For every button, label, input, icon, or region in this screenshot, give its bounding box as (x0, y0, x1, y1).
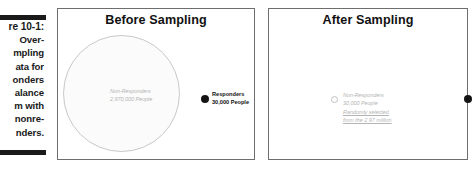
nonresponders-count-after: 30,000 People (343, 99, 392, 107)
caption-line-1: Over- (0, 33, 44, 46)
caption-line-2: mpling (0, 46, 44, 59)
caption-line-7: nonre- (0, 112, 44, 125)
nonresponders-note-line1-after: Randomly selected (343, 108, 392, 116)
panel-after-sampling: After Sampling Non-Responders 30,000 Peo… (268, 8, 468, 160)
nonresponders-note-line2-after: from the 2.97 million (343, 116, 392, 124)
panel-before-stage: Non-Responders 2,970,000 People Responde… (58, 29, 254, 159)
responders-name-before: Responders (212, 91, 249, 99)
panel-after-title: After Sampling (269, 13, 467, 27)
figure-caption: re 10-1: Over- mpling ata for onders ala… (0, 20, 44, 139)
nonresponders-label-after: Non-Responders 30,000 People Randomly se… (343, 91, 392, 125)
responders-count-before: 30,000 People (212, 99, 249, 107)
caption-line-4: onders (0, 73, 44, 86)
panel-before-title: Before Sampling (58, 13, 254, 27)
responders-dot-before (201, 95, 209, 103)
nonresponders-name-after: Non-Responders (343, 91, 392, 99)
caption-rule-bottom (0, 150, 46, 155)
caption-line-6: m with (0, 99, 44, 112)
nonresponders-label-before: Non-Responders 2,970,000 People (110, 88, 152, 103)
figure-number: re 10-1: (0, 20, 44, 33)
nonresponders-count-before: 2,970,000 People (110, 96, 152, 104)
figure-caption-column: re 10-1: Over- mpling ata for onders ala… (0, 0, 46, 170)
nonresponders-circle-after (331, 96, 338, 103)
responders-label-before: Responders 30,000 People (212, 91, 249, 106)
caption-line-8: nders. (0, 126, 44, 139)
panel-after-stage: Non-Responders 30,000 People Randomly se… (269, 29, 467, 159)
nonresponders-name-before: Non-Responders (110, 88, 152, 96)
caption-line-3: ata for (0, 60, 44, 73)
caption-line-5: alance (0, 86, 44, 99)
panel-before-sampling: Before Sampling Non-Responders 2,970,000… (57, 8, 255, 160)
responders-dot-after (464, 95, 472, 103)
